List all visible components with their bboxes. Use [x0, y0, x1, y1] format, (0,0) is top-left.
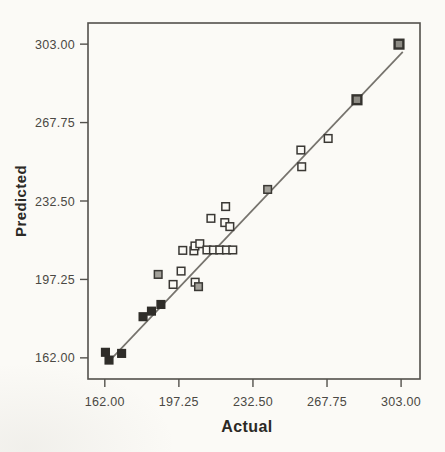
x-tick-label: 197.25: [159, 395, 199, 409]
y-tick-label: 162.00: [35, 351, 75, 365]
data-point: [177, 267, 185, 275]
data-point: [154, 271, 162, 279]
plot-frame: [88, 23, 420, 379]
data-point: [179, 247, 187, 255]
x-tick-label: 232.50: [233, 395, 273, 409]
data-point: [195, 283, 203, 291]
x-tick-label: 303.00: [381, 395, 421, 409]
data-point: [139, 313, 147, 321]
scatter-plot: 162.00197.25232.50267.75303.00162.00197.…: [0, 0, 445, 452]
data-point: [102, 349, 110, 357]
data-point: [169, 281, 177, 289]
y-tick-label: 267.75: [35, 116, 75, 130]
x-axis-title: Actual: [221, 418, 272, 436]
data-point: [353, 95, 362, 104]
data-point: [222, 203, 230, 211]
data-point: [395, 40, 404, 49]
data-point: [148, 307, 156, 315]
x-tick-label: 267.75: [307, 395, 347, 409]
data-point: [297, 146, 305, 154]
scatter-figure: 162.00197.25232.50267.75303.00162.00197.…: [0, 0, 445, 452]
data-point: [157, 301, 165, 309]
data-point: [264, 186, 272, 194]
data-point: [324, 135, 332, 143]
y-tick-label: 303.00: [35, 38, 75, 52]
data-point: [118, 350, 126, 358]
data-point: [207, 215, 215, 223]
y-tick-label: 197.25: [35, 273, 75, 287]
data-point: [298, 163, 306, 171]
y-tick-label: 232.50: [35, 195, 75, 209]
x-tick-label: 162.00: [85, 395, 125, 409]
y-axis-title: Predicted: [12, 165, 29, 237]
data-point: [105, 356, 113, 364]
data-point: [226, 223, 234, 231]
data-point: [229, 246, 237, 254]
